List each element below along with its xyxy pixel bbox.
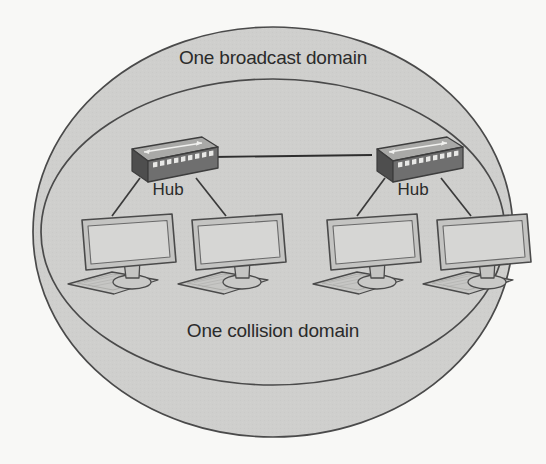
diagram-svg: One broadcast domain One collision domai… — [0, 0, 546, 464]
hub-right-label: Hub — [397, 180, 428, 199]
computer-4 — [423, 214, 531, 294]
collision-domain-label: One collision domain — [187, 320, 359, 341]
broadcast-domain-label: One broadcast domain — [179, 47, 367, 68]
hub-left-label: Hub — [152, 180, 183, 199]
network-diagram-canvas: One broadcast domain One collision domai… — [0, 0, 546, 464]
